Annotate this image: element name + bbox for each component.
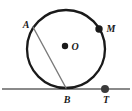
point-label-m: M [107,24,116,34]
point-label-a: A [23,20,30,30]
chord-segment-ab [33,27,66,88]
point-label-b: B [64,95,71,105]
point-label-t: T [103,95,109,105]
point-label-o: O [71,42,78,52]
point-dot-o [62,43,68,49]
point-dot-m [95,25,102,32]
geometry-figure: A M O B T [0,0,132,111]
point-dot-t [101,85,109,93]
